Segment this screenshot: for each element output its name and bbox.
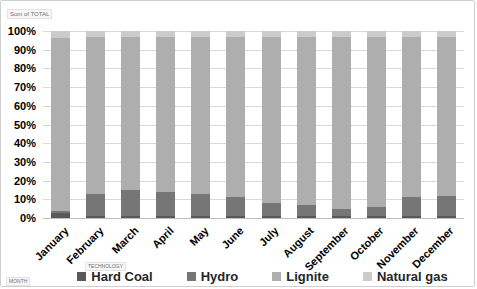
bar-segment-april-natural-gas: [156, 31, 175, 37]
y-tick-label: 40%: [0, 138, 36, 149]
bar-segment-march-lignite: [121, 37, 140, 190]
y-tick-label: 100%: [0, 26, 36, 37]
gridline-0%: [43, 218, 464, 219]
plot-area: [43, 31, 464, 218]
bar-segment-october-hydro: [367, 207, 386, 216]
bar-segment-november-hydro: [402, 197, 421, 216]
bar-segment-november-hard-coal: [402, 216, 421, 218]
bar-segment-june-hydro: [226, 197, 245, 216]
legend-swatch-icon: [272, 272, 281, 281]
gridline-30%: [43, 162, 464, 163]
bar-segment-march-natural-gas: [121, 31, 140, 37]
bar-segment-june-lignite: [226, 37, 245, 198]
bar-segment-february-lignite: [86, 37, 105, 194]
bar-segment-august-natural-gas: [297, 31, 316, 37]
gridline-90%: [43, 50, 464, 51]
bar-segment-february-natural-gas: [86, 31, 105, 37]
y-tick-label: 50%: [0, 120, 36, 131]
bar-segment-august-hydro: [297, 205, 316, 216]
legend-swatch-icon: [363, 272, 372, 281]
bar-segment-november-lignite: [402, 37, 421, 198]
legend-label: Natural gas: [377, 270, 448, 283]
bar-segment-april-lignite: [156, 37, 175, 192]
y-tick-label: 80%: [0, 63, 36, 74]
legend-item-hard-coal: Hard Coal: [77, 270, 152, 283]
gridline-60%: [43, 106, 464, 107]
bar-segment-may-hydro: [191, 194, 210, 216]
bar-segment-september-hydro: [332, 209, 351, 216]
bar-segment-september-lignite: [332, 37, 351, 209]
bar-segment-january-hard-coal: [51, 213, 70, 218]
bar-segment-february-hard-coal: [86, 216, 105, 218]
bar-segment-june-hard-coal: [226, 216, 245, 218]
bar-segment-september-natural-gas: [332, 31, 351, 37]
bar-segment-may-natural-gas: [191, 31, 210, 37]
y-tick-label: 10%: [0, 194, 36, 205]
y-tick-label: 90%: [0, 45, 36, 56]
bar-segment-july-hydro: [262, 203, 281, 216]
legend-item-natural-gas: Natural gas: [363, 270, 448, 283]
legend: Hard CoalHydroLigniteNatural gas: [61, 270, 464, 283]
bar-segment-april-hard-coal: [156, 216, 175, 218]
bar-segment-january-lignite: [51, 38, 70, 212]
axis-field-button[interactable]: MONTH: [6, 277, 30, 286]
bar-segment-august-lignite: [297, 37, 316, 205]
gridline-10%: [43, 199, 464, 200]
legend-swatch-icon: [187, 272, 196, 281]
bar-segment-march-hydro: [121, 190, 140, 216]
bar-segment-december-hydro: [437, 196, 456, 217]
y-tick-label: 30%: [0, 157, 36, 168]
bar-segment-october-hard-coal: [367, 216, 386, 218]
y-tick-label: 60%: [0, 101, 36, 112]
bar-segment-january-hydro: [51, 211, 70, 213]
bar-segment-january-natural-gas: [51, 31, 70, 38]
legend-label: Lignite: [286, 270, 329, 283]
y-tick-label: 70%: [0, 82, 36, 93]
bar-segment-july-lignite: [262, 37, 281, 203]
gridline-40%: [43, 143, 464, 144]
legend-item-hydro: Hydro: [187, 270, 239, 283]
legend-label: Hard Coal: [91, 270, 152, 283]
gridline-50%: [43, 125, 464, 126]
legend-swatch-icon: [77, 272, 86, 281]
y-tick-label: 0%: [0, 213, 36, 224]
bar-segment-december-natural-gas: [437, 31, 456, 37]
gridline-80%: [43, 68, 464, 69]
bar-segment-august-hard-coal: [297, 216, 316, 218]
gridline-70%: [43, 87, 464, 88]
pivot-chart: Sum of TOTAL 100%90%80%70%60%50%40%30%20…: [0, 0, 475, 287]
value-field-button[interactable]: Sum of TOTAL: [7, 9, 52, 19]
bar-segment-may-lignite: [191, 37, 210, 194]
bar-segment-december-lignite: [437, 37, 456, 196]
legend-label: Hydro: [201, 270, 239, 283]
bar-segment-october-lignite: [367, 37, 386, 207]
bar-segment-september-hard-coal: [332, 216, 351, 218]
bar-segment-november-natural-gas: [402, 31, 421, 37]
bar-segment-april-hydro: [156, 192, 175, 216]
bar-segment-february-hydro: [86, 194, 105, 216]
bar-segment-october-natural-gas: [367, 31, 386, 37]
bar-segment-may-hard-coal: [191, 216, 210, 218]
legend-item-lignite: Lignite: [272, 270, 329, 283]
bar-segment-july-natural-gas: [262, 31, 281, 37]
legend-row: TECHNOLOGY Hard CoalHydroLigniteNatural …: [1, 266, 474, 286]
y-tick-label: 20%: [0, 176, 36, 187]
bar-segment-june-natural-gas: [226, 31, 245, 37]
gridline-100%: [43, 31, 464, 32]
bar-segment-december-hard-coal: [437, 216, 456, 218]
gridline-20%: [43, 181, 464, 182]
bar-segment-march-hard-coal: [121, 216, 140, 218]
bar-segment-july-hard-coal: [262, 216, 281, 218]
